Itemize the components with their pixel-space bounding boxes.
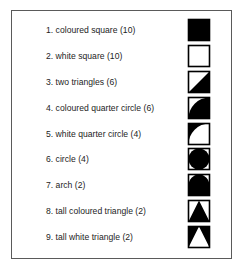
list-item: 8. tall coloured triangle (2) — [12, 198, 231, 224]
legend-list: 1. coloured square (10) 2. white square … — [12, 17, 231, 264]
legend-item-label: 3. two triangles (6) — [46, 76, 117, 87]
white-quarter-circle-icon — [187, 122, 211, 146]
list-item: 7. arch (2) — [12, 172, 231, 198]
two-triangles-icon — [187, 70, 211, 94]
legend-item-label: 1. coloured square (10) — [46, 24, 135, 35]
list-item: 2. white square (10) — [12, 43, 231, 69]
legend-item-label: 5. white quarter circle (4) — [46, 128, 141, 139]
legend-panel: 1. coloured square (10) 2. white square … — [11, 10, 232, 259]
coloured-quarter-circle-icon — [187, 96, 211, 120]
legend-item-label: 2. white square (10) — [46, 50, 122, 61]
legend-item-label: 8. tall coloured triangle (2) — [46, 206, 146, 217]
legend-item-label: 6. circle (4) — [46, 154, 89, 165]
legend-item-label: 9. tall white triangle (2) — [46, 232, 133, 243]
list-item: 1. coloured square (10) — [12, 17, 231, 43]
white-square-icon — [187, 44, 211, 68]
circle-icon — [187, 147, 211, 171]
tall-white-triangle-icon — [187, 225, 211, 249]
list-item: 6. circle (4) — [12, 146, 231, 172]
arch-icon — [187, 173, 211, 197]
legend-item-label: 4. coloured quarter circle (6) — [46, 102, 154, 113]
filled-square-icon — [187, 18, 211, 42]
list-item: 9. tall white triangle (2) — [12, 224, 231, 250]
list-item: 4. coloured quarter circle (6) — [12, 95, 231, 121]
list-item: 3. two triangles (6) — [12, 69, 231, 95]
legend-item-label: 7. arch (2) — [46, 180, 85, 191]
list-item: 5. white quarter circle (4) — [12, 121, 231, 147]
tall-coloured-triangle-icon — [187, 199, 211, 223]
